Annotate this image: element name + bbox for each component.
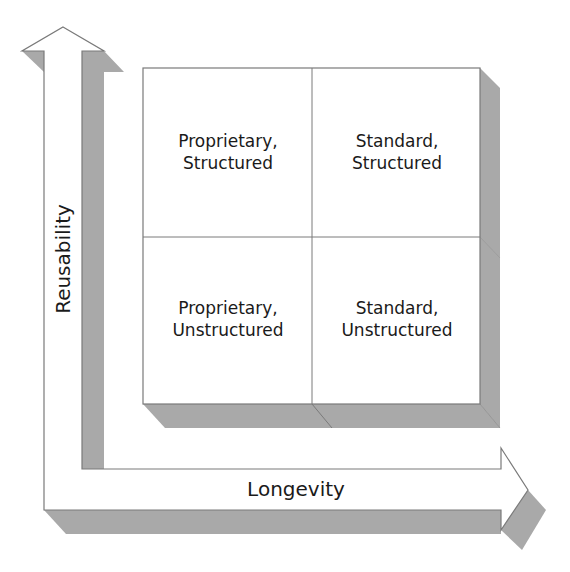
quadrant-top-right-line1: Standard,	[313, 130, 481, 152]
quadrant-top-right-line2: Structured	[313, 152, 481, 174]
quadrant-bottom-left-line1: Proprietary,	[144, 297, 312, 319]
x-axis-label: Longevity	[236, 476, 356, 502]
quadrant-top-right: Standard, Structured	[313, 130, 481, 174]
quadrant-top-left: Proprietary, Structured	[144, 130, 312, 174]
y-axis-label: Reusability	[50, 199, 76, 319]
quadrant-bottom-right-line1: Standard,	[313, 297, 481, 319]
quadrant-bottom-right: Standard, Unstructured	[313, 297, 481, 341]
reusability-longevity-diagram: Proprietary, Structured Standard, Struct…	[0, 0, 570, 572]
quadrant-top-left-line2: Structured	[144, 152, 312, 174]
quadrant-bottom-left-line2: Unstructured	[144, 319, 312, 341]
quadrant-bottom-left: Proprietary, Unstructured	[144, 297, 312, 341]
quadrant-top-left-line1: Proprietary,	[144, 130, 312, 152]
quadrant-bottom-right-line2: Unstructured	[313, 319, 481, 341]
